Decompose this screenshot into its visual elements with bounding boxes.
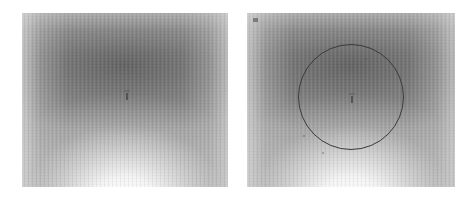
right-image-panel[interactable] xyxy=(247,13,455,187)
image-speck xyxy=(365,58,367,60)
centre-fiducial-mark xyxy=(351,96,353,103)
centre-fiducial-mark xyxy=(126,93,128,100)
image-speck xyxy=(303,135,305,137)
figure-container xyxy=(0,0,476,199)
vertical-striping xyxy=(22,13,228,187)
left-image-panel[interactable] xyxy=(22,13,228,187)
image-speck xyxy=(322,152,324,154)
corner-mark-top-left xyxy=(253,18,258,22)
